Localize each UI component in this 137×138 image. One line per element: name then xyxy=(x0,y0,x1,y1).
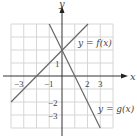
x-axis xyxy=(3,74,128,79)
y-axis-label: y xyxy=(58,0,65,9)
g-label: y = g(x) xyxy=(97,104,135,114)
y-tick-1: 1 xyxy=(55,59,60,69)
y-tick-neg3: −3 xyxy=(48,111,58,121)
x-tick-2: 2 xyxy=(85,79,90,89)
x-tick-neg1: −1 xyxy=(44,79,54,89)
y-axis xyxy=(60,6,65,136)
x-tick-neg3: −3 xyxy=(14,79,24,89)
x-axis-label: x xyxy=(130,71,136,82)
graph: y x y = f(x) y = g(x) −3 −1 2 3 1 −2 −3 xyxy=(0,0,137,138)
x-tick-3: 3 xyxy=(98,79,103,89)
y-tick-neg2: −2 xyxy=(48,98,58,108)
f-label: y = f(x) xyxy=(77,38,112,48)
